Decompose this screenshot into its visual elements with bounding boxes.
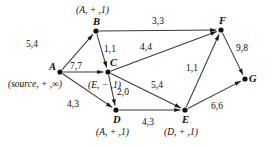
edge-label-f-g: 9,8 [236, 44, 248, 54]
node-c [105, 69, 110, 74]
edge-label-c-f: 4,4 [140, 43, 152, 53]
node-name-f: F [219, 16, 226, 27]
edge-label-b-f: 3,3 [152, 17, 164, 27]
edge-c-f [111, 32, 217, 71]
node-name-a: A [49, 62, 56, 73]
arrowhead-c-e-icon [174, 103, 180, 108]
edge-label-c-e: 5,4 [151, 81, 163, 91]
edge-label-a-d: 4,3 [67, 100, 79, 110]
node-a [57, 69, 62, 74]
node-name-e: E [182, 115, 189, 126]
arrowhead-e-g-icon [234, 81, 240, 86]
node-b [93, 28, 98, 33]
node-name-g: G [249, 74, 257, 85]
node-e [182, 107, 187, 112]
node-name-b: B [93, 17, 100, 28]
vertex-label-c: (E, − ,1) [88, 81, 121, 91]
flow-network-figure: 5,47,74,31,13,34,42,05,44,31,16,69,8ABCD… [0, 0, 272, 146]
edge-label-a-b: 5,4 [26, 40, 38, 50]
vertex-label-a: (source, + ,∞) [8, 80, 62, 90]
edge-label-e-g: 6,6 [211, 102, 223, 112]
node-d [113, 107, 118, 112]
arrowhead-a-d-icon [106, 102, 112, 107]
flow-network-graph [0, 0, 272, 146]
edge-label-e-f: 1,1 [186, 64, 198, 74]
arrowhead-b-c-icon [103, 61, 107, 68]
edge-label-d-e: 4,3 [142, 118, 154, 128]
arrowhead-a-c-icon [97, 70, 103, 74]
vertex-label-b: (A, + ,1) [76, 6, 109, 16]
edge-label-b-c: 1,1 [104, 45, 116, 55]
node-layer [57, 27, 247, 112]
node-g [242, 76, 247, 81]
vertex-label-d: (A, + ,1) [96, 128, 129, 138]
vertex-label-e: (D, + ,1) [164, 128, 198, 138]
edge-layer [62, 28, 243, 112]
edge-label-a-c: 7,7 [70, 62, 82, 72]
edge-f-g [222, 33, 243, 75]
arrowhead-c-f-icon [210, 32, 217, 36]
arrowhead-f-g-icon [238, 68, 243, 74]
node-f [218, 27, 223, 32]
node-name-c: C [110, 58, 117, 69]
arrowhead-d-e-icon [174, 108, 180, 112]
edge-b-f [99, 30, 216, 31]
arrowhead-e-f-icon [215, 34, 219, 41]
node-name-d: D [113, 115, 121, 126]
